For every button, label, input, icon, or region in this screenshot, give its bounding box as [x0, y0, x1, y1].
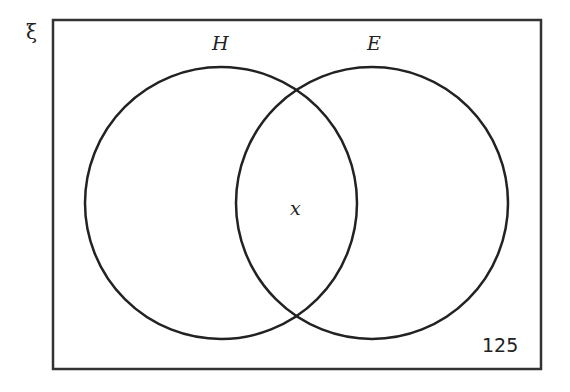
set-h-circle — [85, 67, 357, 339]
universal-set-symbol: ξ — [26, 20, 37, 44]
intersection-value: x — [290, 197, 301, 219]
set-e-circle — [236, 67, 508, 339]
venn-diagram: ξ H E x 125 — [0, 0, 570, 392]
set-h-label: H — [211, 32, 229, 54]
outside-value: 125 — [482, 334, 518, 356]
set-e-label: E — [366, 32, 381, 54]
